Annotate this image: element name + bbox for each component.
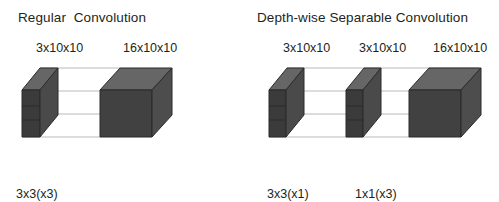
depthwise-separable-convolution-diagram: Regular Convolution 3x10x10 16x10x10 <box>0 0 499 202</box>
panel-regular-convolution: Regular Convolution 3x10x10 16x10x10 <box>0 0 249 202</box>
label-pointwise-conv-kernel-line1: 1x1(x3) <box>355 186 421 202</box>
label-depthwise-conv-kernel-line1: 3x3(x1) <box>267 186 333 202</box>
block-output-tensor-16x10x10 <box>100 68 172 137</box>
label-pointwise-conv-kernel: 1x1(x3) Convolution <box>355 152 421 202</box>
label-regular-conv-kernel: 3x3(x3) Convolution <box>16 152 82 202</box>
label-regular-conv-kernel-line1: 3x3(x3) <box>16 186 82 202</box>
label-depthwise-conv-kernel: 3x3(x1) Convolution <box>267 152 333 202</box>
block-input-tensor-3x10x10 <box>22 68 58 137</box>
panel-depthwise-separable-convolution: Depth-wise Separable Convolution 3x10x10… <box>249 0 499 202</box>
block-output-tensor-16x10x10 <box>409 68 481 137</box>
block-input-tensor-3x10x10 <box>269 68 304 137</box>
block-intermediate-tensor-3x10x10 <box>346 68 381 137</box>
